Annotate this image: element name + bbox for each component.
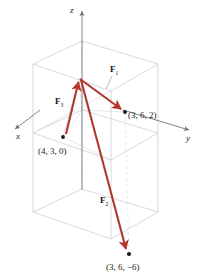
vector-f3-label: F3: [55, 96, 64, 108]
x-axis-line: [15, 110, 40, 129]
projection-guides: [33, 64, 129, 254]
coord-label-3-6-neg6: (3, 6, −6): [106, 262, 140, 272]
x-axis-label: x: [15, 131, 20, 141]
y-axis-label: y: [185, 133, 190, 143]
box-bottom-face: [33, 189, 158, 239]
figure-canvas: x y z F1 F2 F3 (3, 6, 2) (4, 3, 0) (3, 6…: [0, 0, 204, 280]
vector-f3-arrow: [66, 82, 79, 134]
wireframe-box: [33, 41, 158, 239]
vector-diagram-figure: x y z F1 F2 F3 (3, 6, 2) (4, 3, 0) (3, 6…: [0, 0, 204, 280]
vector-f1-label: F1: [110, 64, 119, 76]
guide-c: [63, 137, 111, 160]
point-marker-3-6-neg6: [127, 252, 131, 256]
vector-f2-arrow: [81, 80, 126, 249]
z-axis-label: z: [69, 5, 74, 15]
guide-vertical-drop: [125, 112, 129, 254]
coord-label-4-3-0: (4, 3, 0): [38, 146, 67, 156]
box-top-face: [33, 41, 158, 91]
axes-group: [15, 11, 189, 190]
vector-f1-leader-line: [106, 76, 112, 89]
point-marker-4-3-0: [61, 135, 65, 139]
coord-label-3-6-2: (3, 6, 2): [128, 110, 157, 120]
point-marker-3-6-2: [123, 110, 127, 114]
